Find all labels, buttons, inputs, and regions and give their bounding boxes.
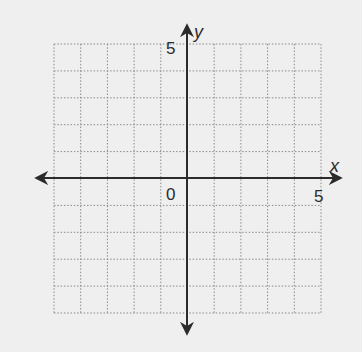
- origin-label: 0: [166, 185, 175, 204]
- y-tick-label-5: 5: [166, 39, 175, 58]
- coordinate-plane: 5 y x 0 5: [0, 0, 362, 352]
- coordinate-grid-chart: 5 y x 0 5: [0, 0, 362, 352]
- x-tick-label-5: 5: [314, 187, 323, 206]
- y-axis-label: y: [192, 22, 204, 42]
- x-axis-label: x: [329, 156, 340, 176]
